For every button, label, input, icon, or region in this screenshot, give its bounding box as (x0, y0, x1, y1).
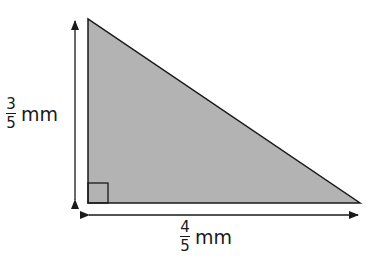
horizontal-unit: mm (195, 226, 232, 248)
horizontal-side-label: 4 5 mm (180, 219, 232, 254)
horizontal-denominator: 5 (180, 238, 190, 254)
right-triangle (88, 19, 360, 203)
vertical-numerator: 3 (6, 96, 16, 112)
vertical-fraction: 3 5 (6, 96, 16, 131)
vertical-side-label: 3 5 mm (6, 96, 58, 131)
vertical-unit: mm (21, 103, 58, 125)
horizontal-numerator: 4 (180, 219, 190, 235)
horizontal-fraction: 4 5 (180, 219, 190, 254)
vertical-denominator: 5 (6, 115, 16, 131)
